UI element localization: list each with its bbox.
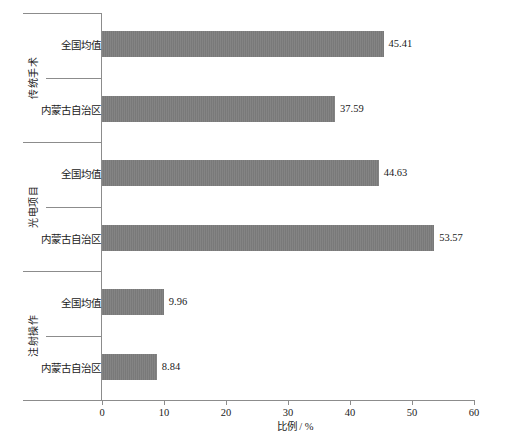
bar-value-b2: 44.63 xyxy=(384,167,408,179)
group-separator-bottom xyxy=(23,400,102,401)
bar-b4 xyxy=(102,289,164,315)
bar-value-b1: 37.59 xyxy=(340,103,364,115)
x-tick-mark-4 xyxy=(350,400,351,405)
series-label-b2: 全国均值 xyxy=(45,169,101,181)
group-label-text: 传统手术 xyxy=(25,57,40,99)
bar-value-b5: 8.84 xyxy=(162,361,180,373)
x-tick-mark-6 xyxy=(474,400,475,405)
x-tick-mark-3 xyxy=(288,400,289,405)
group-label-injection: 注射操作 xyxy=(23,271,41,400)
bar-value-b0: 45.41 xyxy=(389,38,413,50)
x-tick-mark-2 xyxy=(226,400,227,405)
group-label-photoelectric: 光电项目 xyxy=(23,142,41,271)
bar-b0 xyxy=(102,31,384,57)
series-separator-g0 xyxy=(46,78,102,79)
x-tick-mark-0 xyxy=(102,400,103,405)
x-tick-mark-1 xyxy=(164,400,165,405)
series-separator-g2 xyxy=(46,336,102,337)
group-label-traditional-surgery: 传统手术 xyxy=(23,13,41,142)
x-axis-title-text: 比例 / % xyxy=(277,418,314,433)
series-label-b4: 全国均值 xyxy=(45,298,101,310)
series-label-b5: 内蒙古自治区 xyxy=(27,363,101,375)
x-axis-title: 比例 / % xyxy=(0,418,518,433)
bar-value-b3: 53.57 xyxy=(439,232,463,244)
bar-b2 xyxy=(102,160,379,186)
bar-chart: 传统手术 光电项目 注射操作 全国均值 内蒙古自治区 全国均值 内蒙古自治区 全… xyxy=(0,0,518,438)
group-label-text: 注射操作 xyxy=(25,315,40,357)
series-label-b0: 全国均值 xyxy=(45,40,101,52)
series-label-b1: 内蒙古自治区 xyxy=(27,105,101,117)
bar-b1 xyxy=(102,96,335,122)
series-label-b3: 内蒙古自治区 xyxy=(27,234,101,246)
bar-value-b4: 9.96 xyxy=(169,296,187,308)
bar-b5 xyxy=(102,354,157,380)
group-label-text: 光电项目 xyxy=(25,186,40,228)
x-tick-mark-5 xyxy=(412,400,413,405)
bar-b3 xyxy=(102,225,434,251)
series-separator-g1 xyxy=(46,207,102,208)
